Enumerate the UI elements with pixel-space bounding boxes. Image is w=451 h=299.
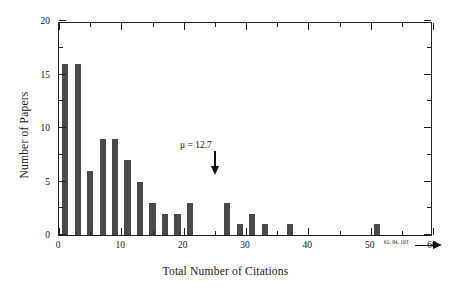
y-tick-label: 15	[26, 70, 50, 80]
plot-area: μ = 12.7 61, 84, 103	[58, 22, 432, 236]
mean-arrow-head	[211, 166, 219, 175]
histogram-bar	[374, 224, 380, 235]
tick-mark	[433, 23, 434, 30]
tick-mark	[402, 23, 403, 27]
x-tick-label: 40	[287, 240, 327, 250]
histogram-bar	[287, 224, 293, 235]
tick-mark	[424, 127, 431, 128]
tick-mark	[424, 234, 431, 235]
tick-mark	[121, 228, 122, 235]
histogram-bar	[75, 64, 81, 235]
histogram-bar	[124, 160, 130, 235]
tick-mark	[246, 228, 247, 235]
tick-mark	[277, 23, 278, 27]
y-tick-label: 20	[26, 16, 50, 26]
tick-mark	[153, 23, 154, 27]
histogram-bar	[174, 214, 180, 235]
histogram-bar	[224, 203, 230, 235]
tick-mark	[427, 47, 431, 48]
histogram-bar	[137, 182, 143, 236]
tick-mark	[246, 23, 247, 30]
x-tick-label: 0	[38, 240, 78, 250]
tick-mark	[90, 231, 91, 235]
tick-mark	[424, 181, 431, 182]
tick-mark	[340, 231, 341, 235]
histogram-bar	[262, 224, 268, 235]
tick-mark	[59, 207, 63, 208]
tick-mark	[215, 23, 216, 27]
tick-mark	[427, 154, 431, 155]
tick-mark	[308, 23, 309, 30]
tick-mark	[424, 20, 431, 21]
x-tick-label: 20	[163, 240, 203, 250]
tick-mark	[371, 228, 372, 235]
tick-mark	[59, 100, 63, 101]
tick-mark	[59, 20, 66, 21]
tick-mark	[59, 127, 66, 128]
tick-mark	[215, 231, 216, 235]
tick-mark	[59, 154, 63, 155]
tick-mark	[427, 100, 431, 101]
mean-annotation-label: μ = 12.7	[180, 140, 212, 150]
histogram-bar	[112, 139, 118, 235]
tick-mark	[402, 231, 403, 235]
histogram-bar	[62, 64, 68, 235]
outlier-annotation-label: 61, 84, 103	[384, 239, 408, 245]
x-axis-title: Total Number of Citations	[0, 265, 451, 277]
histogram-figure: Number of Papers Total Number of Citatio…	[0, 0, 451, 299]
tick-mark	[59, 181, 66, 182]
tick-mark	[59, 47, 63, 48]
y-tick-label: 5	[26, 177, 50, 187]
histogram-bar	[249, 214, 255, 235]
tick-mark	[59, 23, 60, 30]
tick-mark	[184, 23, 185, 30]
tick-mark	[90, 23, 91, 27]
x-tick-label: 30	[225, 240, 265, 250]
y-tick-label: 0	[26, 230, 50, 240]
x-tick-label: 10	[100, 240, 140, 250]
histogram-bar	[100, 139, 106, 235]
tick-mark	[427, 207, 431, 208]
tick-mark	[184, 228, 185, 235]
tick-mark	[424, 74, 431, 75]
histogram-bar	[187, 203, 193, 235]
y-tick-label: 10	[26, 123, 50, 133]
tick-mark	[433, 228, 434, 235]
histogram-bar	[237, 224, 243, 235]
tick-mark	[308, 228, 309, 235]
tick-mark	[59, 234, 66, 235]
tick-mark	[340, 23, 341, 27]
histogram-bar	[87, 171, 93, 235]
tick-mark	[59, 74, 66, 75]
outlier-arrow-head	[433, 241, 442, 249]
tick-mark	[277, 231, 278, 235]
tick-mark	[371, 23, 372, 30]
histogram-bar	[162, 214, 168, 235]
tick-mark	[153, 231, 154, 235]
tick-mark	[121, 23, 122, 30]
